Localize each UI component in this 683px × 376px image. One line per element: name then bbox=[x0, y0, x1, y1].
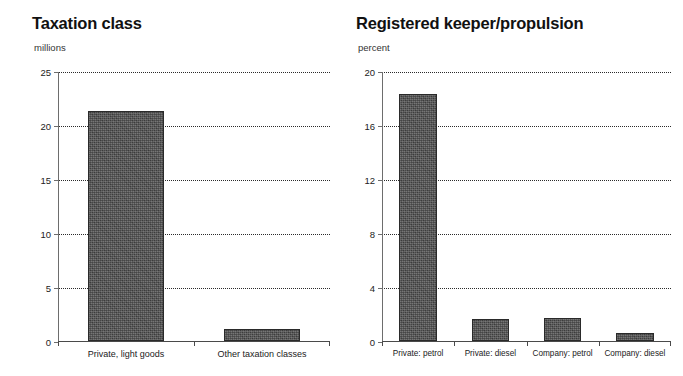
y-tick-label: 20 bbox=[40, 121, 51, 132]
gridline bbox=[58, 72, 330, 73]
chart-panel-taxation-class: Taxation class millions 0510152025Privat… bbox=[0, 0, 342, 376]
y-axis-line-right bbox=[382, 72, 383, 342]
y-tick-label: 8 bbox=[370, 229, 375, 240]
y-tick-mark bbox=[378, 180, 383, 181]
y-tick-mark bbox=[54, 234, 59, 235]
x-axis-category-label: Private: petrol bbox=[393, 349, 444, 358]
y-tick-label: 10 bbox=[40, 229, 51, 240]
y-tick-mark bbox=[378, 288, 383, 289]
x-axis-category-label: Company: petrol bbox=[533, 349, 593, 358]
x-tick-mark bbox=[670, 341, 671, 346]
y-tick-label: 4 bbox=[370, 283, 375, 294]
y-tick-label: 16 bbox=[364, 121, 375, 132]
x-axis-category-label: Private, light goods bbox=[88, 349, 165, 359]
page-title-right: Registered keeper/propulsion bbox=[356, 14, 583, 33]
plot-area-right: 048121620Private: petrolPrivate: dieselC… bbox=[382, 72, 671, 342]
x-tick-mark bbox=[454, 341, 455, 346]
bar[interactable] bbox=[616, 333, 654, 341]
x-tick-mark bbox=[194, 341, 195, 346]
x-axis-category-label: Private: diesel bbox=[465, 349, 516, 358]
y-tick-mark bbox=[54, 180, 59, 181]
y-tick-label: 20 bbox=[364, 67, 375, 78]
y-tick-label: 0 bbox=[46, 337, 51, 348]
y-axis-unit-right: percent bbox=[358, 42, 390, 53]
y-tick-label: 0 bbox=[370, 337, 375, 348]
y-tick-mark bbox=[54, 126, 59, 127]
x-tick-mark bbox=[382, 341, 383, 346]
y-tick-mark bbox=[54, 288, 59, 289]
x-tick-mark bbox=[527, 341, 528, 346]
chart-panel-registered-keeper-propulsion: Registered keeper/propulsion percent 048… bbox=[341, 0, 683, 376]
y-axis-line-left bbox=[58, 72, 59, 342]
y-tick-label: 5 bbox=[46, 283, 51, 294]
y-tick-label: 12 bbox=[364, 175, 375, 186]
y-tick-label: 15 bbox=[40, 175, 51, 186]
x-axis-category-label: Company: diesel bbox=[604, 349, 665, 358]
y-tick-label: 25 bbox=[40, 67, 51, 78]
bar[interactable] bbox=[399, 94, 437, 341]
y-tick-mark bbox=[54, 72, 59, 73]
y-tick-mark bbox=[378, 72, 383, 73]
y-axis-unit-left: millions bbox=[34, 42, 66, 53]
y-tick-mark bbox=[378, 126, 383, 127]
x-axis-category-label: Other taxation classes bbox=[217, 349, 306, 359]
plot-area-left: 0510152025Private, light goodsOther taxa… bbox=[58, 72, 330, 342]
x-tick-mark bbox=[58, 341, 59, 346]
bar[interactable] bbox=[88, 111, 164, 341]
y-tick-mark bbox=[378, 234, 383, 235]
page-title-left: Taxation class bbox=[32, 14, 142, 33]
bar[interactable] bbox=[472, 319, 510, 341]
dual-bar-chart-figure: Taxation class millions 0510152025Privat… bbox=[0, 0, 683, 376]
bar[interactable] bbox=[544, 318, 582, 341]
x-tick-mark bbox=[599, 341, 600, 346]
bar[interactable] bbox=[224, 329, 300, 341]
x-tick-mark bbox=[329, 341, 330, 346]
gridline bbox=[382, 72, 671, 73]
